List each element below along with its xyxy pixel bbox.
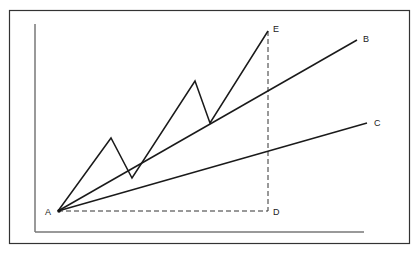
label-b: B (363, 34, 369, 44)
trendline-a-c (58, 123, 367, 211)
zigzag-path-a-e (58, 31, 268, 211)
point-a-marker (57, 209, 61, 213)
label-e: E (273, 24, 279, 34)
label-d: D (273, 207, 280, 217)
diagram-canvas: A B C D E (0, 0, 419, 256)
label-a: A (45, 207, 51, 217)
label-c: C (374, 118, 381, 128)
trendline-a-b (58, 40, 357, 211)
outer-frame (10, 11, 410, 244)
